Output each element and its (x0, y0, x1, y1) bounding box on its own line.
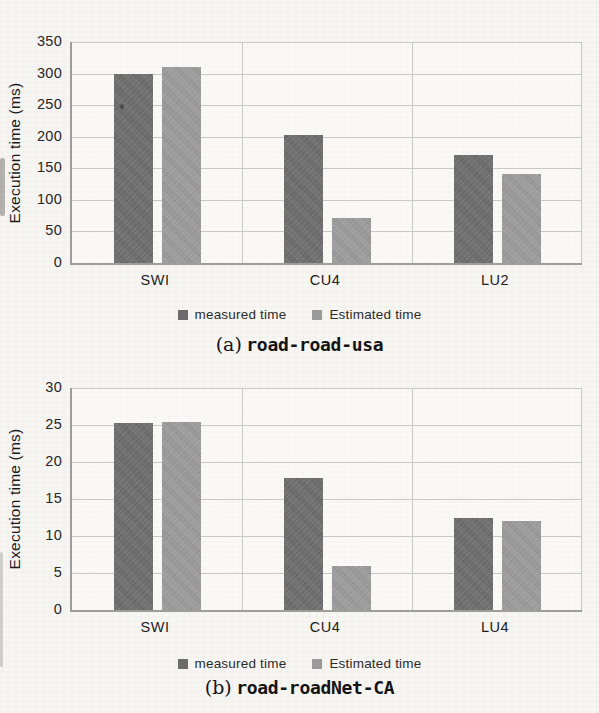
y-tick-label: 150 (22, 159, 62, 176)
y-tick-label: 25 (22, 416, 62, 433)
bar-estimated (162, 67, 201, 263)
bar-measured (284, 135, 323, 263)
y-tick-label: 0 (22, 254, 62, 271)
bar-measured (284, 478, 323, 610)
legend-swatch-measured (178, 659, 188, 669)
x-category-label: SWI (105, 619, 205, 635)
y-tick-label: 350 (22, 33, 62, 50)
gridline (242, 388, 243, 610)
y-tick-label: 10 (22, 527, 62, 544)
caption-prefix: (b) (205, 676, 232, 698)
legend-item-estimated: Estimated time (312, 656, 421, 671)
y-tick-label: 200 (22, 128, 62, 145)
legend-item-measured: measured time (178, 656, 287, 671)
chart-road-roadnet-ca: Execution time (ms) measured time Estima… (0, 356, 599, 713)
gridline (581, 388, 582, 610)
x-category-label: SWI (105, 272, 205, 288)
bar-measured (454, 518, 493, 610)
legend-item-measured: measured time (178, 307, 287, 322)
gridline (412, 388, 413, 610)
chart-road-road-usa: Execution time (ms) measured time Estima… (0, 0, 599, 356)
subfigure-caption: (a) road-road-usa (0, 333, 599, 355)
x-category-label: LU2 (445, 272, 545, 288)
legend-label-estimated: Estimated time (329, 656, 421, 671)
legend: measured time Estimated time (0, 656, 599, 671)
y-tick-label: 50 (22, 222, 62, 239)
legend: measured time Estimated time (0, 307, 599, 322)
y-tick-label: 5 (22, 564, 62, 581)
y-tick-label: 30 (22, 379, 62, 396)
gridline (412, 42, 413, 263)
bar-estimated (502, 521, 541, 610)
plot-area (70, 388, 582, 612)
legend-swatch-estimated (312, 310, 322, 320)
y-tick-label: 300 (22, 65, 62, 82)
y-tick-label: 250 (22, 96, 62, 113)
bar-estimated (332, 566, 371, 610)
gridline (581, 42, 582, 263)
y-tick-label: 100 (22, 191, 62, 208)
caption-dataset-name: road-roadNet-CA (236, 677, 394, 698)
plot-area (70, 42, 582, 265)
gridline (72, 388, 582, 389)
bar-estimated (502, 174, 541, 263)
y-tick-label: 20 (22, 453, 62, 470)
y-tick-label: 15 (22, 490, 62, 507)
scanned-paper-figure: { "chart_data": [ { "type": "bar", "capt… (0, 0, 599, 713)
legend-label-measured: measured time (195, 307, 287, 322)
legend-swatch-estimated (312, 659, 322, 669)
bar-measured (454, 155, 493, 263)
legend-swatch-measured (178, 310, 188, 320)
bar-measured (114, 423, 153, 610)
subfigure-caption: (b) road-roadNet-CA (0, 676, 599, 698)
x-category-label: CU4 (275, 619, 375, 635)
x-category-label: CU4 (275, 272, 375, 288)
bar-estimated (332, 218, 371, 263)
bar-measured (114, 74, 153, 263)
legend-label-estimated: Estimated time (329, 307, 421, 322)
legend-item-estimated: Estimated time (312, 307, 421, 322)
caption-prefix: (a) (216, 333, 242, 355)
y-tick-label: 0 (22, 601, 62, 618)
gridline (242, 42, 243, 263)
legend-label-measured: measured time (195, 656, 287, 671)
gridline (72, 42, 582, 43)
caption-dataset-name: road-road-usa (246, 334, 383, 355)
x-category-label: LU4 (445, 619, 545, 635)
bar-estimated (162, 422, 201, 610)
